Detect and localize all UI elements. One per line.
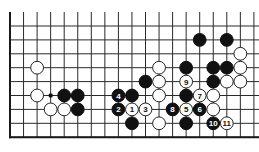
move-number-label: 11 (223, 119, 232, 128)
white-stone (207, 89, 220, 102)
move-number-label: 8 (170, 105, 175, 114)
black-stone (71, 103, 84, 116)
white-stone (207, 103, 220, 116)
white-stone-5: 5 (180, 103, 193, 116)
black-stone (220, 61, 233, 74)
white-stone-1: 1 (126, 103, 139, 116)
black-stone (126, 117, 139, 130)
black-stone (180, 117, 193, 130)
black-stone-2: 2 (112, 103, 125, 116)
black-stone (58, 89, 71, 102)
white-stone (234, 75, 247, 88)
point-marker-dot (48, 93, 52, 97)
move-number-label: 5 (184, 105, 189, 114)
move-number-label: 4 (116, 92, 121, 101)
white-stone (153, 75, 166, 88)
move-number-label: 10 (209, 119, 218, 128)
black-stone-10: 10 (207, 117, 220, 130)
white-stone (220, 75, 233, 88)
white-stone (153, 89, 166, 102)
move-number-label: 9 (184, 78, 189, 87)
black-stone (220, 34, 233, 47)
black-stone-8: 8 (166, 103, 179, 116)
white-stone-11: 11 (220, 117, 233, 130)
white-stone (153, 117, 166, 130)
black-stone (207, 61, 220, 74)
white-stone-3: 3 (139, 103, 152, 116)
white-stone (44, 103, 57, 116)
black-stone (180, 61, 193, 74)
go-board-diagram: 9472138561011 (0, 0, 259, 152)
go-board-svg: 9472138561011 (0, 0, 259, 152)
black-stone (207, 75, 220, 88)
white-stone-9: 9 (180, 75, 193, 88)
move-number-label: 6 (197, 105, 202, 114)
white-stone (31, 89, 44, 102)
black-stone (71, 89, 84, 102)
white-stone (58, 103, 71, 116)
black-stone (180, 89, 193, 102)
white-stone (234, 61, 247, 74)
white-stone (153, 61, 166, 74)
white-stone (234, 47, 247, 60)
move-number-label: 2 (116, 105, 121, 114)
black-stone (126, 89, 139, 102)
move-number-label: 3 (143, 105, 148, 114)
white-stone-7: 7 (193, 89, 206, 102)
black-stone-4: 4 (112, 89, 125, 102)
black-stone (193, 34, 206, 47)
black-stone-6: 6 (193, 103, 206, 116)
black-stone (139, 75, 152, 88)
move-number-label: 7 (197, 92, 202, 101)
white-stone (31, 61, 44, 74)
move-number-label: 1 (130, 105, 135, 114)
